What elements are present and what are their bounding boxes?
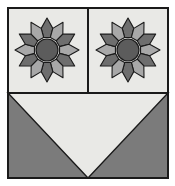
- rosette-core: [36, 39, 58, 61]
- emblem-canvas: Heraldic Coat of Arms Shield divided per…: [0, 0, 175, 186]
- rosette-core: [117, 39, 139, 61]
